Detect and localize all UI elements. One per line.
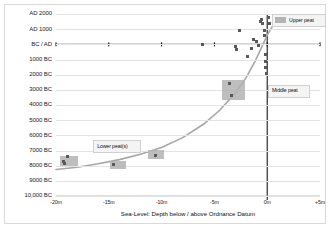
y-tick-label: AD 1000 [4, 26, 52, 32]
upper-peat-swatch [275, 17, 286, 23]
x-tick-label: -20m [40, 199, 72, 205]
data-point [265, 72, 268, 75]
gridline [56, 181, 320, 182]
data-point [238, 29, 241, 32]
data-point [257, 44, 260, 47]
data-point [263, 34, 266, 37]
data-point [264, 60, 267, 63]
sea-level-chart: AD 2000AD 1000BC / AD1000 BC2000 BC3000 … [0, 0, 332, 230]
gridline [56, 196, 320, 197]
sea-level-curve [56, 16, 280, 169]
x-tick-label: +5m [304, 199, 332, 205]
data-point [264, 53, 267, 56]
y-tick-label: 7000 BC [4, 147, 52, 153]
x-tick-label: -5m [198, 199, 230, 205]
data-point [63, 162, 66, 165]
data-point [246, 55, 249, 58]
x-tick-label: -10m [146, 199, 178, 205]
y-tick-label: 9000 BC [4, 177, 52, 183]
data-point [264, 66, 267, 69]
data-point [267, 16, 270, 19]
gridline [56, 120, 320, 121]
gridline [56, 105, 320, 106]
gridline [56, 29, 320, 30]
data-point [201, 43, 204, 46]
gridline [56, 75, 320, 76]
peat-band [222, 80, 245, 100]
y-tick-label: 2000 BC [4, 71, 52, 77]
data-point [228, 82, 231, 85]
upper-peat-legend: Upper peat [289, 17, 314, 23]
gridline [56, 44, 320, 45]
x-tick-label: 0m [251, 199, 283, 205]
data-point [255, 40, 258, 43]
x-axis-title: Sea-Level: Depth below / above Ordnance … [56, 210, 320, 217]
gridline [56, 166, 320, 167]
y-tick-label: 6000 BC [4, 132, 52, 138]
data-point [263, 29, 266, 32]
y-tick-label: 4000 BC [4, 101, 52, 107]
data-point [250, 47, 253, 50]
data-point [230, 94, 233, 97]
data-point [154, 154, 157, 157]
x-tick-label: -15m [93, 199, 125, 205]
data-point [235, 48, 238, 51]
data-point [261, 22, 264, 25]
y-tick-label: AD 2000 [4, 10, 52, 16]
data-point [260, 18, 263, 21]
y-tick-label: BC / AD [4, 41, 52, 47]
gridline [56, 135, 320, 136]
y-tick-label: 5000 BC [4, 117, 52, 123]
y-tick-label: 8000 BC [4, 162, 52, 168]
gridline [56, 60, 320, 61]
data-point [268, 22, 271, 25]
y-tick-label: 1000 BC [4, 56, 52, 62]
lower-peat-label: Lower peat(s) [97, 143, 127, 149]
middle-peat-label: Middle peat [272, 87, 298, 93]
y-tick-label: 10,000 BC [4, 192, 52, 198]
data-point [112, 163, 115, 166]
data-point [66, 155, 69, 158]
y-tick-label: 3000 BC [4, 86, 52, 92]
